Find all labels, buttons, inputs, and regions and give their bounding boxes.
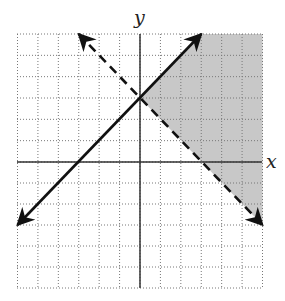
inequality-graph: y x <box>0 0 285 301</box>
x-axis-label: x <box>266 150 277 172</box>
y-axis-label: y <box>133 6 145 28</box>
